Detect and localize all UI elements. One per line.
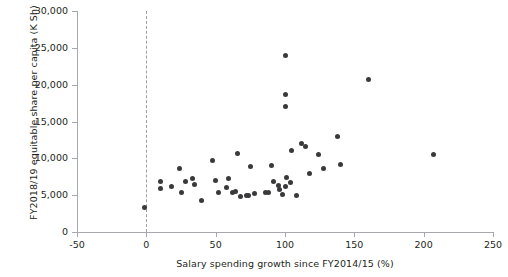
data-point [284, 175, 289, 180]
data-point [179, 190, 184, 195]
y-tick-label: 5,000 [0, 190, 68, 200]
data-point [246, 193, 251, 198]
plot-area [77, 11, 493, 232]
x-tick [146, 232, 147, 237]
data-point [190, 176, 195, 181]
data-point [226, 176, 231, 181]
data-point [335, 134, 340, 139]
x-tick-label: 0 [116, 240, 176, 250]
y-tick-label: 10,000 [0, 153, 68, 163]
x-tick-label: 200 [394, 240, 454, 250]
data-point [307, 171, 312, 176]
x-tick [424, 232, 425, 237]
y-tick-label: 25,000 [0, 43, 68, 53]
x-tick-label: 150 [324, 240, 384, 250]
data-point [288, 180, 293, 185]
data-point [252, 191, 257, 196]
x-tick-label: -50 [47, 240, 107, 250]
data-point [169, 184, 174, 189]
data-point [316, 152, 321, 157]
x-tick [354, 232, 355, 237]
data-point [289, 148, 294, 153]
data-point [338, 162, 343, 167]
y-tick-label: 0 [0, 227, 68, 237]
data-point [321, 166, 326, 171]
data-point [210, 158, 215, 163]
data-point [158, 179, 163, 184]
x-tick-label: 50 [186, 240, 246, 250]
data-point [283, 184, 288, 189]
data-point [158, 186, 163, 191]
data-point [269, 163, 274, 168]
scatter-plot-figure: FY2018/19 equitable share per capita (K … [0, 0, 508, 277]
data-point [294, 193, 299, 198]
data-point [248, 164, 253, 169]
data-point [283, 53, 288, 58]
data-point [177, 166, 182, 171]
data-point [366, 77, 371, 82]
data-point [283, 92, 288, 97]
data-point [238, 194, 243, 199]
x-tick-label: 100 [255, 240, 315, 250]
y-tick-label: 15,000 [0, 117, 68, 127]
data-point [183, 179, 188, 184]
data-point [142, 205, 147, 210]
data-point [216, 190, 221, 195]
y-tick-label: 20,000 [0, 80, 68, 90]
data-point [213, 178, 218, 183]
data-point [280, 192, 285, 197]
data-point [224, 185, 229, 190]
x-axis-title: Salary spending growth since FY2014/15 (… [77, 258, 493, 269]
data-point [199, 198, 204, 203]
data-point [233, 189, 238, 194]
data-point [303, 144, 308, 149]
data-point [431, 152, 436, 157]
data-point [192, 182, 197, 187]
data-point [235, 151, 240, 156]
data-point [283, 104, 288, 109]
x-tick [285, 232, 286, 237]
x-tick-label: 250 [463, 240, 508, 250]
data-point [277, 187, 282, 192]
y-tick-label: 30,000 [0, 6, 68, 16]
data-point [266, 190, 271, 195]
x-tick [493, 232, 494, 237]
x-tick [216, 232, 217, 237]
x-tick [77, 232, 78, 237]
